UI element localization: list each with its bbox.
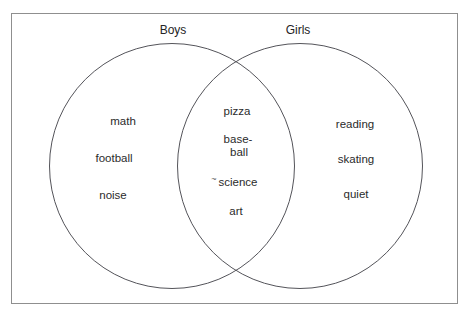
girls-circle: [177, 43, 423, 289]
overlap-item-science: science: [219, 177, 258, 189]
girls-item-quiet: quiet: [344, 189, 369, 201]
venn-diagram: Boys Girls math football noise pizza bas…: [0, 0, 472, 314]
girls-item-reading: reading: [336, 119, 374, 131]
girls-item-skating: skating: [338, 154, 374, 166]
boys-item-noise: noise: [99, 190, 127, 202]
overlap-item-baseball-line1: base-: [224, 134, 253, 146]
boys-item-math: math: [110, 116, 136, 128]
scan-artifact-mark: ~: [211, 175, 216, 184]
overlap-item-baseball-line2: ball: [230, 147, 248, 159]
boys-item-football: football: [95, 153, 132, 165]
overlap-item-pizza: pizza: [224, 106, 251, 118]
girls-set-label: Girls: [286, 24, 311, 36]
overlap-item-art: art: [229, 206, 242, 218]
boys-set-label: Boys: [160, 24, 187, 36]
